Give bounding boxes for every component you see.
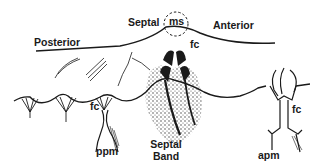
diagram-canvas: Posterior Septal Anterior ms fc fc fc pp…	[0, 0, 328, 168]
label-septal: Septal	[128, 17, 160, 28]
label-posterior: Posterior	[34, 37, 80, 48]
label-fc-right: fc	[292, 104, 301, 115]
hatch-strokes	[55, 52, 150, 86]
label-septal-band-1: Septal	[144, 139, 188, 150]
label-fc-top: fc	[190, 39, 199, 50]
label-anterior: Anterior	[213, 20, 254, 31]
label-ms: ms	[169, 16, 184, 27]
septal-band-stipple	[145, 65, 201, 145]
label-septal-band-2: Band	[144, 151, 188, 162]
label-fc-left: fc	[90, 101, 99, 112]
label-ppm: ppm	[96, 146, 118, 157]
label-apm: apm	[258, 150, 280, 161]
